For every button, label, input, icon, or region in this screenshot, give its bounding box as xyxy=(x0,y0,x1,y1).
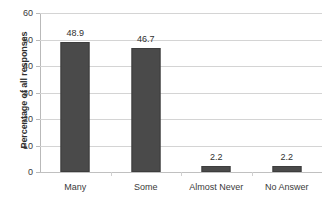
bar-slot: 46.7 xyxy=(111,13,182,172)
bar-slot: 48.9 xyxy=(40,13,111,172)
y-tick-label: 0 xyxy=(28,168,33,177)
bar-value-label: 2.2 xyxy=(210,153,223,162)
bar-value-label: 46.7 xyxy=(137,35,155,44)
category-divider-tick xyxy=(111,172,112,176)
category-label: Some xyxy=(111,182,182,192)
bar-value-label: 2.2 xyxy=(280,153,293,162)
bar-chart: Percentage of all responses 010203040506… xyxy=(0,0,331,206)
axis-tick-mark xyxy=(36,172,40,173)
y-tick-label: 60 xyxy=(23,9,33,18)
bar-slot: 2.2 xyxy=(181,13,252,172)
plot-area: 0102030405060 48.946.72.22.2 xyxy=(40,13,322,172)
y-tick-label: 20 xyxy=(23,115,33,124)
category-divider-tick xyxy=(252,172,253,176)
y-tick-label: 10 xyxy=(23,141,33,150)
category-label: Many xyxy=(40,182,111,192)
bars-group: 48.946.72.22.2 xyxy=(40,13,322,172)
category-label: No Answer xyxy=(252,182,323,192)
x-axis-category-labels: ManySomeAlmost NeverNo Answer xyxy=(40,182,322,202)
y-tick-label: 30 xyxy=(23,88,33,97)
category-divider-tick xyxy=(181,172,182,176)
bar[interactable] xyxy=(131,48,160,172)
y-tick-label: 40 xyxy=(23,62,33,71)
bar[interactable] xyxy=(202,166,231,172)
category-label: Almost Never xyxy=(181,182,252,192)
bar[interactable] xyxy=(61,42,90,172)
y-tick-label: 50 xyxy=(23,35,33,44)
bar-value-label: 48.9 xyxy=(66,29,84,38)
bar-slot: 2.2 xyxy=(252,13,323,172)
bar[interactable] xyxy=(272,166,301,172)
